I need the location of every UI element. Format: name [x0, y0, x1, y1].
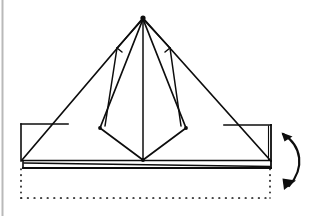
apex-vertex — [140, 15, 145, 20]
diagram-svg — [0, 0, 315, 216]
origami-diagram-canvas: Fold the lower edge flap up behind the m… — [0, 0, 315, 216]
kite-left-vertex — [98, 126, 102, 130]
kite-bottom-vertex — [141, 158, 145, 162]
page-background — [0, 0, 315, 216]
kite-right-vertex — [184, 126, 188, 130]
